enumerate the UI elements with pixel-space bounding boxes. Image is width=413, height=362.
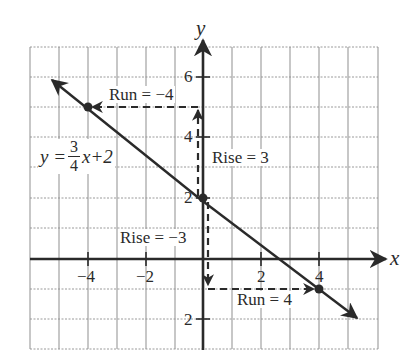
x-tick-label: 2 [257,268,266,285]
y-axis-label: y [196,18,205,39]
slope-fraction: 3 4 [68,139,80,174]
x-tick-label: 4 [315,268,324,285]
y-tick-label: 6 [184,68,193,85]
x-axis-label: x [390,248,399,269]
equation-lhs: y = [40,146,66,168]
x-tick-label: −2 [136,268,154,285]
x-tick-label: −4 [77,268,95,285]
run-positive-label: Run = 4 [236,291,293,308]
slope-numerator: 3 [68,139,80,157]
equation-rhs: x+2 [82,146,113,168]
point-0-2 [199,194,208,203]
point-neg4-5 [84,103,93,112]
line-equation: y = 3 4 x+2 [38,139,115,174]
rise-positive-label: Rise = 3 [211,149,270,166]
slope-denominator: 4 [70,157,78,174]
rise-negative-label: Rise = −3 [119,229,187,246]
coordinate-graph [0,0,413,362]
run-negative-label: Run = −4 [108,86,175,103]
y-tick-label: 2 [184,311,193,328]
y-tick-label: 4 [184,128,193,145]
y-tick-label: 2 [184,189,193,206]
